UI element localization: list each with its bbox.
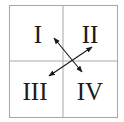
quadrant-label-iv: IV bbox=[77, 78, 103, 105]
quadrant-label-iii: III bbox=[23, 78, 48, 105]
quadrant-diagram: I II III IV bbox=[0, 0, 124, 122]
quadrant-label-ii: II bbox=[82, 21, 99, 48]
arrow-i-iv bbox=[54, 38, 82, 72]
quadrant-label-i: I bbox=[34, 21, 42, 48]
